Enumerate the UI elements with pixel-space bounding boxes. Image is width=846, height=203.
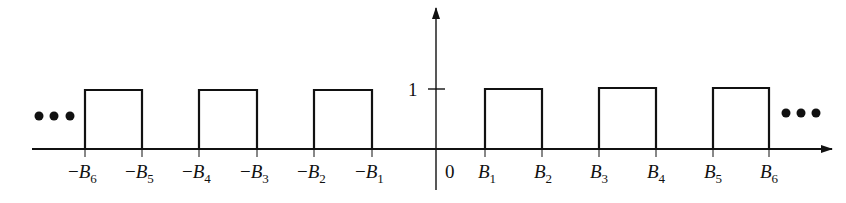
label-neg-b2: −B2	[297, 161, 326, 186]
label-b1: B1	[478, 161, 496, 186]
x-ticks	[85, 149, 769, 157]
label-b4: B4	[647, 161, 666, 186]
negative-labels: −B6 −B5 −B4 −B3 −B2 −B1	[68, 161, 384, 186]
right-ellipsis-icon	[782, 109, 821, 118]
pulse-b5-b6	[713, 88, 769, 149]
pulses	[85, 88, 769, 149]
left-ellipsis-icon	[35, 112, 75, 121]
label-neg-b3: −B3	[240, 161, 269, 186]
label-b3: B3	[590, 161, 608, 186]
label-b2: B2	[534, 161, 552, 186]
label-b6: B6	[760, 161, 779, 186]
label-neg-b6: −B6	[68, 161, 97, 186]
origin-label: 0	[445, 161, 455, 182]
pulse-b1-b2	[485, 89, 542, 149]
y-tick-label: 1	[408, 79, 418, 100]
pulse-neg-b6-b5	[85, 90, 142, 149]
pulse-neg-b4-b3	[199, 90, 257, 149]
label-neg-b4: −B4	[182, 161, 211, 186]
pulse-b3-b4	[599, 88, 656, 149]
label-b5: B5	[704, 161, 722, 186]
label-neg-b1: −B1	[355, 161, 384, 186]
label-neg-b5: −B5	[125, 161, 154, 186]
pulse-neg-b2-b1	[314, 90, 372, 149]
positive-labels: B1 B2 B3 B4 B5 B6	[478, 161, 779, 186]
pulse-diagram: 1 0 −B6 −B5 −B4 −B3 −B2 −B1 B1 B2 B	[0, 0, 846, 203]
